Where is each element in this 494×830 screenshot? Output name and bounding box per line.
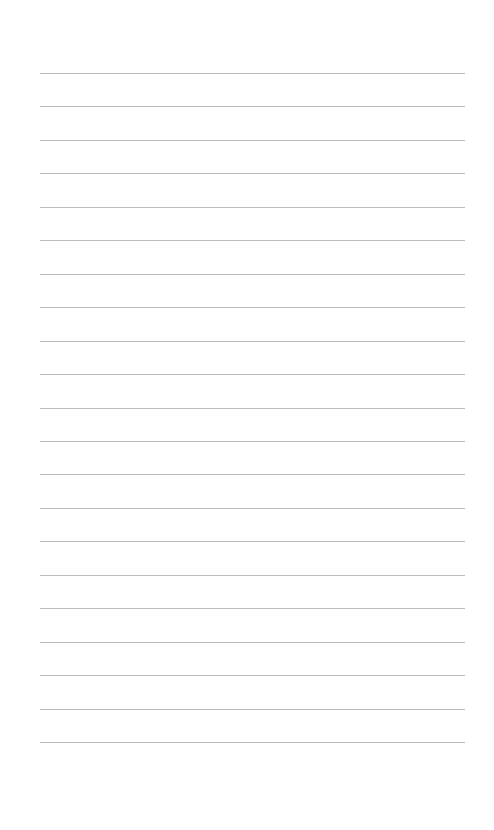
lined-paper-page xyxy=(0,0,494,830)
ruled-line xyxy=(40,274,465,275)
ruled-line xyxy=(40,642,465,643)
ruled-line xyxy=(40,742,465,743)
ruled-line xyxy=(40,106,465,107)
ruled-line xyxy=(40,173,465,174)
ruled-line xyxy=(40,474,465,475)
ruled-line xyxy=(40,408,465,409)
ruled-line xyxy=(40,374,465,375)
ruled-line xyxy=(40,441,465,442)
ruled-line xyxy=(40,675,465,676)
ruled-line xyxy=(40,207,465,208)
ruled-line xyxy=(40,240,465,241)
ruled-line xyxy=(40,508,465,509)
ruled-line xyxy=(40,307,465,308)
ruled-line xyxy=(40,140,465,141)
ruled-line xyxy=(40,575,465,576)
ruled-line xyxy=(40,709,465,710)
ruled-line xyxy=(40,341,465,342)
ruled-line xyxy=(40,541,465,542)
ruled-line xyxy=(40,608,465,609)
ruled-line xyxy=(40,73,465,74)
